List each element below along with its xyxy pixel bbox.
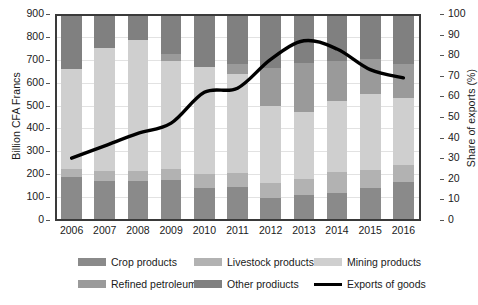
bar-segment-crop-products bbox=[194, 188, 215, 220]
legend-item[interactable]: Exports of goods bbox=[314, 278, 426, 290]
y-tick-mark-left bbox=[46, 220, 50, 221]
bar-segment-crop-products bbox=[294, 195, 315, 220]
bar-2012 bbox=[260, 14, 281, 220]
bar-segment-crop-products bbox=[61, 177, 82, 220]
y-tick-mark-left bbox=[46, 197, 50, 198]
y-tick-mark-left bbox=[46, 106, 50, 107]
y-tick-mark-right bbox=[440, 220, 444, 221]
y-tick-label-right: 70 bbox=[448, 70, 478, 81]
bar-segment-crop-products bbox=[128, 181, 149, 220]
y-tick-mark-left bbox=[46, 83, 50, 84]
plot-frame-left bbox=[55, 14, 57, 221]
legend-item[interactable]: Refined petroleum bbox=[78, 278, 197, 290]
legend-item[interactable]: Other prodiucts bbox=[194, 278, 299, 290]
plot-area bbox=[55, 14, 420, 220]
bar-segment-crop-products bbox=[94, 181, 115, 220]
legend-color-swatch bbox=[194, 280, 222, 288]
y-tick-mark-left bbox=[46, 60, 50, 61]
legend-item[interactable]: Livestock products bbox=[194, 256, 314, 268]
bar-segment-mining-products bbox=[393, 98, 414, 166]
bar-segment-other-products bbox=[393, 14, 414, 64]
bar-segment-refined-petroleum bbox=[294, 63, 315, 112]
legend-label: Mining products bbox=[347, 256, 421, 268]
bar-segment-livestock-products bbox=[294, 179, 315, 195]
bar-segment-refined-petroleum bbox=[260, 68, 281, 106]
y-tick-mark-left bbox=[46, 37, 50, 38]
legend-color-swatch bbox=[194, 258, 222, 266]
bar-segment-mining-products bbox=[294, 112, 315, 178]
y-tick-label-right: 10 bbox=[448, 193, 478, 204]
bar-segment-other-products bbox=[227, 14, 248, 64]
bar-segment-mining-products bbox=[327, 101, 348, 172]
y-tick-label-left: 500 bbox=[14, 100, 44, 111]
bar-segment-mining-products bbox=[128, 40, 149, 170]
y-tick-mark-left bbox=[46, 128, 50, 129]
bar-segment-other-products bbox=[360, 14, 381, 59]
y-tick-mark-right bbox=[440, 35, 444, 36]
y-tick-label-left: 300 bbox=[14, 145, 44, 156]
y-tick-label-left: 800 bbox=[14, 31, 44, 42]
chart-legend: Crop productsLivestock productsMining pr… bbox=[78, 256, 440, 300]
legend-label: Refined petroleum bbox=[111, 278, 197, 290]
bar-segment-other-products bbox=[194, 14, 215, 67]
bar-segment-crop-products bbox=[360, 188, 381, 220]
legend-label: Exports of goods bbox=[347, 278, 426, 290]
bar-segment-other-products bbox=[260, 14, 281, 68]
bar-2015 bbox=[360, 14, 381, 220]
y-tick-mark-right bbox=[440, 55, 444, 56]
y-tick-mark-right bbox=[440, 179, 444, 180]
y-tick-mark-left bbox=[46, 174, 50, 175]
y-tick-label-left: 700 bbox=[14, 54, 44, 65]
y-tick-mark-right bbox=[440, 14, 444, 15]
plot-frame-top bbox=[55, 14, 420, 16]
bar-segment-mining-products bbox=[260, 106, 281, 184]
bar-segment-livestock-products bbox=[360, 170, 381, 188]
y-axis-ticks-right: 1009080706050403020100 bbox=[440, 0, 474, 305]
bar-segment-livestock-products bbox=[227, 173, 248, 187]
bar-segment-other-products bbox=[94, 14, 115, 48]
y-tick-label-left: 100 bbox=[14, 191, 44, 202]
bar-segment-mining-products bbox=[161, 61, 182, 169]
bar-2009 bbox=[161, 14, 182, 220]
bar-segment-livestock-products bbox=[194, 174, 215, 188]
legend-label: Other prodiucts bbox=[227, 278, 299, 290]
y-tick-label-right: 50 bbox=[448, 111, 478, 122]
chart-figure: Billion CFA Francs Share of exports (%) … bbox=[0, 0, 478, 305]
bar-segment-refined-petroleum bbox=[161, 54, 182, 61]
bar-segment-mining-products bbox=[194, 67, 215, 175]
y-tick-label-left: 400 bbox=[14, 122, 44, 133]
bar-segment-refined-petroleum bbox=[227, 64, 248, 73]
bar-segment-livestock-products bbox=[161, 169, 182, 180]
legend-label: Livestock products bbox=[227, 256, 314, 268]
bar-segment-refined-petroleum bbox=[327, 61, 348, 101]
legend-color-swatch bbox=[78, 258, 106, 266]
y-tick-label-right: 40 bbox=[448, 132, 478, 143]
y-tick-label-right: 80 bbox=[448, 49, 478, 60]
bar-segment-other-products bbox=[294, 14, 315, 63]
bar-2011 bbox=[227, 14, 248, 220]
y-tick-mark-left bbox=[46, 14, 50, 15]
y-tick-label-left: 200 bbox=[14, 168, 44, 179]
y-tick-mark-right bbox=[440, 158, 444, 159]
bar-2014 bbox=[327, 14, 348, 220]
legend-item[interactable]: Mining products bbox=[314, 256, 421, 268]
y-tick-mark-right bbox=[440, 96, 444, 97]
bar-segment-other-products bbox=[61, 14, 82, 69]
bar-segment-crop-products bbox=[393, 182, 414, 220]
bar-segment-mining-products bbox=[227, 74, 248, 174]
bar-segment-crop-products bbox=[327, 193, 348, 220]
bar-segment-livestock-products bbox=[260, 183, 281, 198]
bar-segment-mining-products bbox=[61, 69, 82, 169]
bar-segment-other-products bbox=[161, 14, 182, 54]
legend-item[interactable]: Crop products bbox=[78, 256, 177, 268]
bar-segment-livestock-products bbox=[393, 165, 414, 182]
bar-2016 bbox=[393, 14, 414, 220]
x-tick-label-2016: 2016 bbox=[383, 224, 423, 236]
y-axis-ticks-left: 9008007006005004003002001000 bbox=[12, 0, 44, 305]
plot-frame-right bbox=[419, 14, 421, 221]
y-tick-mark-right bbox=[440, 199, 444, 200]
bar-segment-other-products bbox=[128, 14, 149, 40]
plot-frame-bottom bbox=[55, 219, 420, 221]
y-tick-label-right: 60 bbox=[448, 90, 478, 101]
bar-segment-livestock-products bbox=[128, 171, 149, 181]
